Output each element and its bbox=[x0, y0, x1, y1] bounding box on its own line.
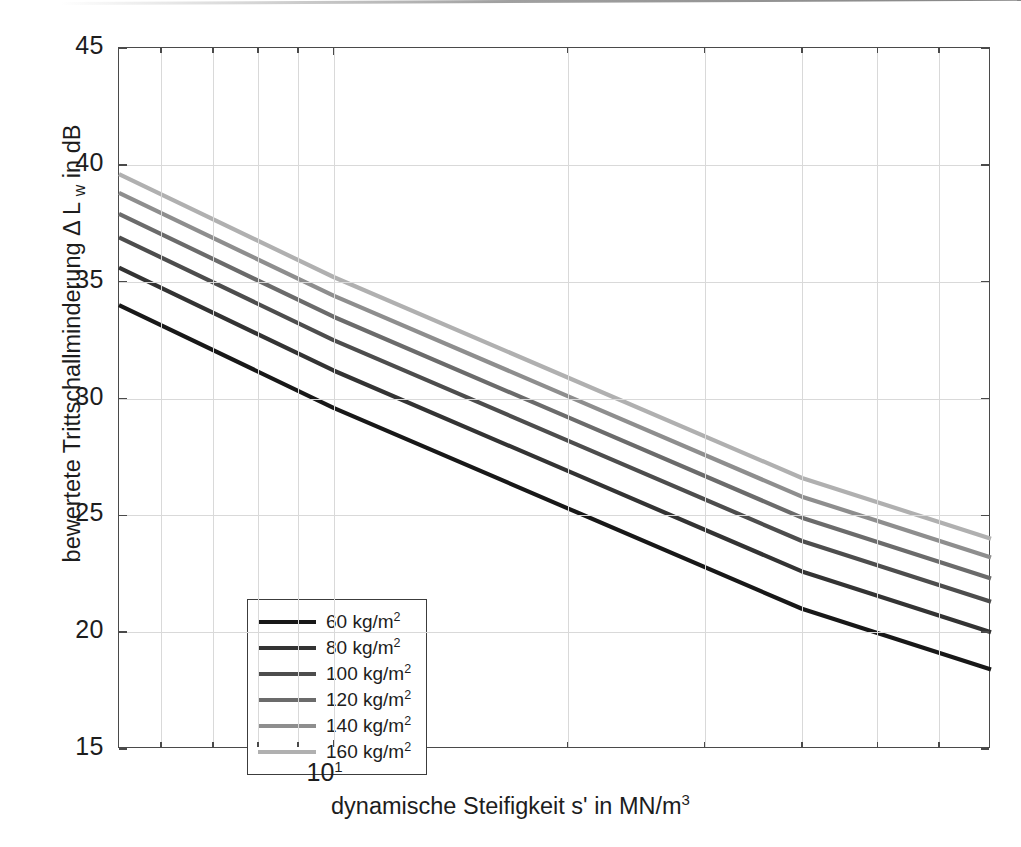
gridline-vertical bbox=[705, 48, 706, 747]
gridline-horizontal bbox=[119, 515, 989, 516]
y-axis-tick bbox=[981, 47, 989, 48]
legend-item[interactable]: 60 kg/m2 bbox=[258, 609, 418, 635]
gridline-vertical bbox=[568, 48, 569, 747]
legend-label: 60 kg/m2 bbox=[326, 611, 401, 633]
y-axis-tick bbox=[119, 47, 127, 48]
legend-color-swatch bbox=[258, 672, 316, 677]
x-axis-tick-minor bbox=[877, 48, 878, 53]
legend-color-swatch bbox=[258, 620, 316, 625]
x-axis-tick-minor bbox=[877, 742, 878, 747]
y-axis-tick bbox=[981, 281, 989, 282]
x-axis-tick-major bbox=[333, 48, 334, 55]
legend-item[interactable]: 120 kg/m2 bbox=[258, 687, 418, 713]
gridline-vertical bbox=[802, 48, 803, 747]
legend-label: 140 kg/m2 bbox=[326, 715, 411, 737]
y-axis-tick bbox=[981, 631, 989, 632]
gridline-vertical bbox=[298, 48, 299, 747]
gridline-vertical bbox=[161, 48, 162, 747]
x-axis-tick-minor bbox=[938, 48, 939, 53]
legend-color-swatch bbox=[258, 750, 316, 755]
y-axis-tick bbox=[981, 398, 989, 399]
legend-item[interactable]: 140 kg/m2 bbox=[258, 713, 418, 739]
gridline-horizontal bbox=[119, 632, 989, 633]
y-axis-tick bbox=[981, 748, 989, 749]
legend-label: 120 kg/m2 bbox=[326, 689, 411, 711]
series-line bbox=[119, 214, 991, 579]
x-axis-tick-minor bbox=[257, 48, 258, 53]
gridline-horizontal bbox=[119, 399, 989, 400]
legend-item[interactable]: 100 kg/m2 bbox=[258, 661, 418, 687]
x-axis-tick-minor bbox=[801, 742, 802, 747]
y-axis-tick bbox=[119, 515, 127, 516]
x-axis-tick-minor bbox=[160, 742, 161, 747]
x-axis-title: dynamische Steifigkeit s' in MN/m3 bbox=[0, 793, 1021, 820]
gridline-vertical bbox=[258, 48, 259, 747]
legend-item[interactable]: 80 kg/m2 bbox=[258, 635, 418, 661]
x-axis-tick-major bbox=[333, 740, 334, 747]
y-axis-tick bbox=[981, 515, 989, 516]
x-axis-tick-minor bbox=[297, 48, 298, 53]
y-axis-tick bbox=[119, 631, 127, 632]
x-axis-tick-minor bbox=[297, 742, 298, 747]
x-axis-tick-minor bbox=[567, 48, 568, 53]
x-axis-tick-minor bbox=[160, 48, 161, 53]
y-axis-tick bbox=[119, 164, 127, 165]
x-axis-tick-minor bbox=[938, 742, 939, 747]
legend-color-swatch bbox=[258, 646, 316, 651]
y-axis-title: bewertete Trittschallminderung Δ L w in … bbox=[59, 34, 86, 654]
x-axis-tick-label: 101 bbox=[307, 758, 343, 787]
x-axis-tick-minor bbox=[212, 48, 213, 53]
gridline-vertical bbox=[877, 48, 878, 747]
gridline-horizontal bbox=[119, 282, 989, 283]
y-axis-tick-label: 15 bbox=[44, 732, 104, 761]
gridline-vertical bbox=[939, 48, 940, 747]
x-axis-tick-minor bbox=[567, 742, 568, 747]
legend-label: 80 kg/m2 bbox=[326, 637, 401, 659]
x-axis-tick-minor bbox=[704, 742, 705, 747]
series-line bbox=[119, 237, 991, 602]
x-axis-tick-minor bbox=[704, 48, 705, 53]
legend-label: 100 kg/m2 bbox=[326, 663, 411, 685]
chart-figure: 60 kg/m280 kg/m2100 kg/m2120 kg/m2140 kg… bbox=[0, 0, 1021, 847]
x-axis-tick-minor bbox=[257, 742, 258, 747]
x-axis-tick-minor bbox=[801, 48, 802, 53]
y-axis-tick bbox=[119, 398, 127, 399]
series-line bbox=[119, 268, 991, 633]
legend-color-swatch bbox=[258, 724, 316, 729]
y-axis-tick bbox=[981, 164, 989, 165]
gridline-vertical bbox=[213, 48, 214, 747]
gridline-vertical bbox=[334, 48, 335, 747]
x-axis-tick-minor bbox=[212, 742, 213, 747]
gridline-horizontal bbox=[119, 165, 989, 166]
legend-color-swatch bbox=[258, 698, 316, 703]
legend: 60 kg/m280 kg/m2100 kg/m2120 kg/m2140 kg… bbox=[247, 599, 427, 775]
y-axis-tick bbox=[119, 281, 127, 282]
y-axis-tick bbox=[119, 748, 127, 749]
plot-area: 60 kg/m280 kg/m2100 kg/m2120 kg/m2140 kg… bbox=[118, 47, 990, 748]
series-line bbox=[119, 174, 991, 539]
